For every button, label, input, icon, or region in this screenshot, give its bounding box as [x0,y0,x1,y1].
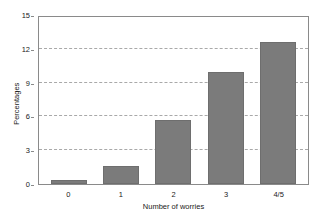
x-axis-tick-label: 1 [103,186,139,202]
y-axis-tick-mark [31,16,34,17]
y-axis-tick-label: 12 [22,46,30,54]
bar [208,72,244,184]
y-axis-tick-label: 3 [26,147,30,155]
bar-series [39,17,308,184]
y-axis-tick-label: 15 [22,12,30,20]
bar-chart-figure: 03691215 Percentages 01234/5 Number of w… [0,0,315,223]
y-axis-tick-mark [31,84,34,85]
y-axis-tick-mark [31,50,34,51]
x-axis-tick-label: 2 [155,186,191,202]
y-axis-tick-label: 6 [26,114,30,122]
y-axis-tick-mark [31,117,34,118]
x-axis-tick-label: 3 [208,186,244,202]
bar [260,42,296,184]
y-axis-tick-mark [31,151,34,152]
y-axis-tick-label: 0 [26,181,30,189]
x-axis-title: Number of worries [38,203,309,211]
x-axis-tick-label: 0 [50,186,86,202]
bar [51,180,87,185]
y-axis-title: Percentages [13,49,21,159]
plot-area [38,16,309,185]
x-axis: 01234/5 [38,186,309,202]
y-axis-tick-label: 9 [26,80,30,88]
bar [155,120,191,184]
y-axis-tick-mark [31,185,34,186]
bar [103,166,139,184]
x-axis-tick-label: 4/5 [261,186,297,202]
